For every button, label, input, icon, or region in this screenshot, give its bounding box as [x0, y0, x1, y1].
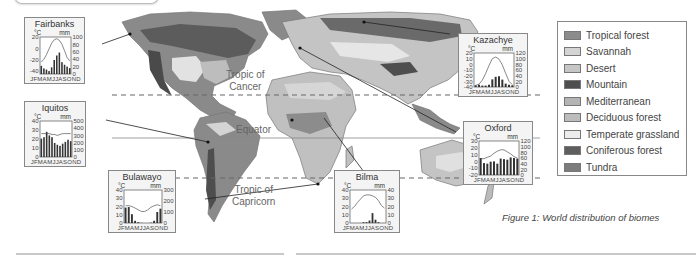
biome-legend: Tropical forest Savannah Desert Mountain… [557, 21, 687, 176]
svg-text:20: 20 [32, 136, 39, 142]
svg-text:300: 300 [74, 133, 85, 139]
svg-text:-10: -10 [469, 165, 478, 171]
svg-text:mm: mm [374, 182, 385, 189]
legend-swatch [564, 113, 581, 122]
svg-text:10: 10 [471, 152, 478, 158]
legend-label: Desert [586, 63, 615, 74]
legend-label: Mediterranean [586, 96, 650, 107]
svg-text:mm: mm [150, 182, 161, 189]
legend-item-temperate-grassland: Temperate grassland [564, 126, 680, 143]
svg-text:JFMAMJJASOND: JFMAMJJASOND [474, 177, 525, 183]
svg-text:20: 20 [342, 204, 349, 210]
svg-text:20: 20 [471, 145, 478, 151]
svg-text:-20: -20 [30, 57, 39, 63]
svg-text:400: 400 [74, 125, 85, 131]
svg-text:30: 30 [388, 195, 395, 201]
svg-text:mm: mm [59, 29, 70, 36]
se-asia [412, 104, 460, 134]
legend-label: Mountain [586, 79, 627, 90]
svg-text:mm: mm [507, 133, 518, 140]
svg-text:JFMAMJJASOND: JFMAMJJASOND [469, 89, 520, 95]
svg-text:40: 40 [342, 187, 349, 193]
svg-text:10: 10 [342, 212, 349, 218]
legend-item-mountain: Mountain [564, 77, 680, 94]
climograph-plot: °Cmm4030201003002001000JFMAMJJASOND [109, 171, 175, 232]
svg-text:80: 80 [73, 42, 80, 48]
climograph-plot: °Cmm200-20-40100806040200JFMAMJJASOND [25, 18, 84, 83]
tropic-of-cancer-label: Tropic of Cancer [226, 69, 265, 93]
legend-item-desert: Desert [564, 60, 680, 77]
climograph-oxford: Oxford °Cmm3020100-10-20120100806040200J… [463, 121, 533, 185]
climograph-plot: °Cmm20100-10-20-30-40120100806040200JFMA… [459, 34, 527, 96]
legend-item-tundra: Tundra [564, 159, 680, 176]
svg-text:mm: mm [502, 45, 513, 52]
svg-text:40: 40 [116, 187, 123, 193]
svg-text:mm: mm [60, 113, 71, 120]
climograph-plot: °Cmm403020100403020100JFMAMJJASOND [335, 171, 399, 232]
legend-item-mediterranean: Mediterranean [564, 93, 680, 110]
legend-swatch [564, 163, 581, 172]
climograph-plot: °Cmm3020100-10-20120100806040200JFMAMJJA… [464, 122, 532, 184]
svg-text:10: 10 [116, 212, 123, 218]
svg-text:40: 40 [32, 118, 39, 124]
tropic-of-capricorn-label: Tropic of Capricorn [232, 184, 275, 208]
svg-text:-40: -40 [30, 68, 39, 74]
svg-text:300: 300 [164, 187, 175, 193]
svg-text:JFMAMJJASOND: JFMAMJJASOND [343, 225, 394, 231]
svg-text:60: 60 [73, 49, 80, 55]
svg-text:20: 20 [116, 204, 123, 210]
climograph-bilma: Bilma °Cmm403020100403020100JFMAMJJASOND [334, 170, 400, 233]
legend-label: Deciduous forest [586, 112, 661, 123]
svg-text:200: 200 [74, 140, 85, 146]
legend-swatch [564, 130, 581, 139]
climograph-bulawayo: Bulawayo °Cmm4030201003002001000JFMAMJJA… [108, 170, 176, 233]
legend-swatch [564, 80, 581, 89]
svg-text:100: 100 [74, 147, 85, 153]
equator-label: Equator [236, 124, 271, 136]
legend-item-tropical-forest: Tropical forest [564, 27, 680, 44]
legend-label: Coniferous forest [586, 145, 662, 156]
svg-text:10: 10 [32, 145, 39, 151]
svg-text:500: 500 [74, 118, 85, 124]
svg-text:20: 20 [73, 64, 80, 70]
figure-caption: Figure 1: World distribution of biomes [502, 212, 659, 223]
legend-swatch [564, 146, 581, 155]
svg-text:30: 30 [342, 195, 349, 201]
legend-label: Savannah [586, 46, 631, 57]
legend-swatch [564, 64, 581, 73]
legend-label: Tundra [586, 162, 617, 173]
svg-text:0: 0 [474, 159, 478, 165]
svg-text:40: 40 [73, 56, 80, 62]
svg-text:30: 30 [116, 195, 123, 201]
climograph-iquitos: Iquitos °Cmm4030201005004003002001000JFM… [24, 101, 86, 167]
legend-label: Temperate grassland [586, 129, 679, 140]
new-zealand [484, 182, 494, 204]
climograph-fairbanks: Fairbanks °Cmm200-20-40100806040200JFMAM… [24, 17, 85, 84]
svg-text:20: 20 [388, 204, 395, 210]
climograph-plot: °Cmm4030201005004003002001000JFMAMJJASON… [25, 102, 85, 166]
legend-label: Tropical forest [586, 30, 649, 41]
legend-item-savannah: Savannah [564, 44, 680, 61]
svg-text:30: 30 [32, 127, 39, 133]
legend-item-deciduous-forest: Deciduous forest [564, 110, 680, 127]
legend-swatch [564, 47, 581, 56]
svg-text:30: 30 [471, 138, 478, 144]
svg-text:100: 100 [73, 34, 84, 40]
legend-swatch [564, 97, 581, 106]
svg-text:JFMAMJJASOND: JFMAMJJASOND [30, 76, 81, 82]
legend-swatch [564, 31, 581, 40]
svg-text:100: 100 [164, 209, 175, 215]
climograph-kazachye: Kazachye °Cmm20100-10-20-30-401201008060… [458, 33, 528, 97]
svg-text:10: 10 [388, 212, 395, 218]
svg-text:20: 20 [32, 34, 39, 40]
svg-text:200: 200 [164, 198, 175, 204]
svg-text:40: 40 [388, 187, 395, 193]
svg-text:JFMAMJJASOND: JFMAMJJASOND [31, 159, 82, 165]
svg-text:JFMAMJJASOND: JFMAMJJASOND [118, 225, 169, 231]
legend-item-coniferous-forest: Coniferous forest [564, 143, 680, 160]
svg-text:0: 0 [35, 46, 39, 52]
